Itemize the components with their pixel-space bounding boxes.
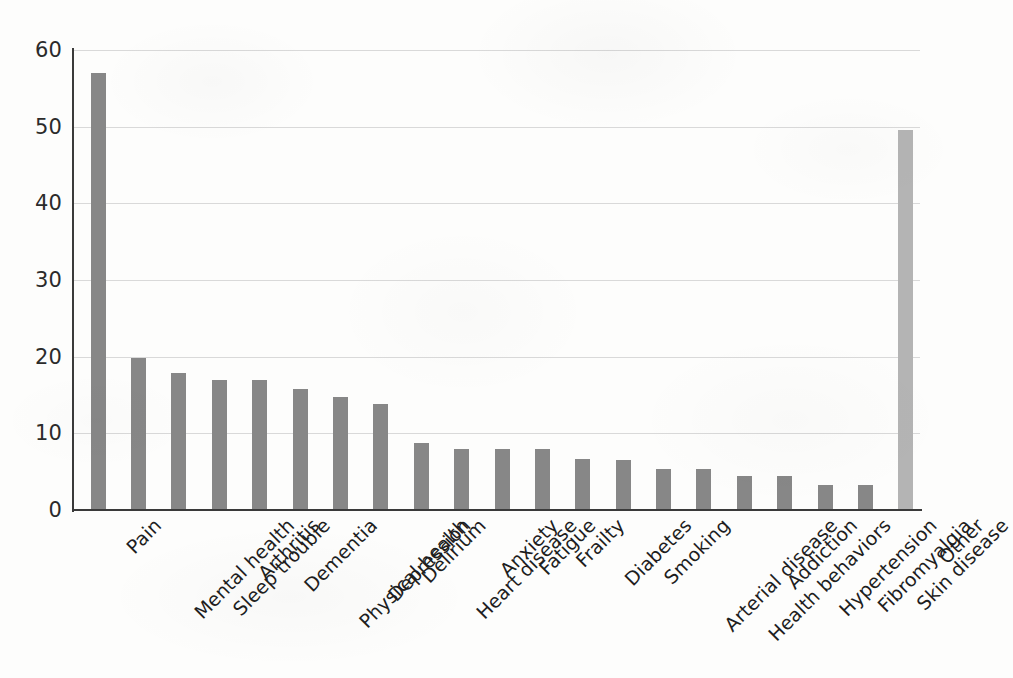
y-tick-label-60: 60 — [6, 38, 62, 62]
y-tick-label-50: 50 — [6, 115, 62, 139]
bar-series — [72, 50, 920, 510]
plot-area — [72, 50, 920, 510]
bar-fatigue — [495, 449, 510, 510]
bar-health-behaviors — [696, 469, 711, 510]
x-axis-line — [72, 509, 922, 511]
bar-mental-health — [131, 358, 146, 510]
bar-arthritis — [212, 380, 227, 510]
bar-pain — [91, 73, 106, 510]
y-tick-label-30: 30 — [6, 268, 62, 292]
bar-fibromyalgia — [818, 485, 833, 510]
bar-hypertension — [777, 476, 792, 511]
y-axis-line — [72, 48, 74, 512]
bar-skin-disease — [858, 485, 873, 510]
bar-sleep-trouble — [171, 373, 186, 510]
bar-arterial-disease — [656, 469, 671, 510]
bar-addiction — [737, 476, 752, 511]
bar-depression — [333, 397, 348, 510]
bar-frailty — [535, 449, 550, 510]
bar-dementia — [252, 380, 267, 510]
bar-other — [898, 130, 913, 510]
y-tick-label-40: 40 — [6, 191, 62, 215]
x-axis-category-labels: PainMental healthSleep troubleArthritisD… — [72, 514, 922, 664]
bar-heart-disease — [414, 443, 429, 510]
bar-physical-health — [293, 389, 308, 510]
y-tick-label-10: 10 — [6, 421, 62, 445]
bar-delirium — [373, 404, 388, 510]
y-axis-tick-labels: 0102030405060 — [0, 50, 62, 510]
bar-anxiety — [454, 449, 469, 510]
bar-smoking — [616, 460, 631, 510]
bar-diabetes — [575, 459, 590, 510]
x-label-pain: Pain — [122, 514, 166, 558]
y-tick-label-20: 20 — [6, 345, 62, 369]
y-tick-label-0: 0 — [6, 498, 62, 522]
